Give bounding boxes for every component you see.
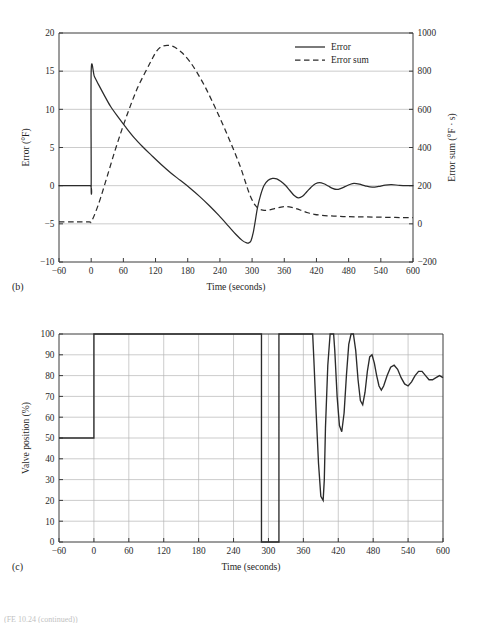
panel-tag-label: (b) xyxy=(12,281,24,293)
x-tick-label: 360 xyxy=(277,266,291,276)
x-tick-label: 0 xyxy=(92,546,97,556)
y-axis-title: Valve position (%) xyxy=(20,402,32,474)
y2-tick-label: 600 xyxy=(418,105,432,115)
y-tick-label: 10 xyxy=(45,105,55,115)
y-tick-label: 40 xyxy=(45,454,55,464)
y2-tick-label: 400 xyxy=(418,143,432,153)
x-tick-label: 60 xyxy=(119,266,129,276)
x-axis-title: Time (seconds) xyxy=(206,281,265,293)
x-tick-label: 120 xyxy=(149,266,163,276)
x-tick-label: 480 xyxy=(342,266,356,276)
x-tick-label: 600 xyxy=(436,546,450,556)
y-tick-label: 5 xyxy=(50,143,55,153)
chart-panel-b: −60060120180240300360420480540600−10−505… xyxy=(0,0,477,312)
y-tick-label: 30 xyxy=(45,475,55,485)
footer-caption-fragment: (FE 10.24 (continued)) xyxy=(4,616,124,623)
y-tick-label: 60 xyxy=(45,413,55,423)
y-tick-label: 0 xyxy=(50,537,55,547)
x-tick-label: 180 xyxy=(181,266,195,276)
y2-tick-label: 800 xyxy=(418,66,432,76)
y-tick-label: 20 xyxy=(45,28,55,38)
y-tick-label: 100 xyxy=(41,329,55,339)
y-tick-label: 50 xyxy=(45,433,55,443)
x-tick-label: 420 xyxy=(331,546,345,556)
series-line-error-sum xyxy=(59,45,413,222)
x-tick-label: 300 xyxy=(245,266,259,276)
legend-label-0: Error xyxy=(331,42,352,52)
y-tick-label: 70 xyxy=(45,392,55,402)
y-tick-label: 20 xyxy=(45,496,55,506)
y2-tick-label: −200 xyxy=(418,257,438,267)
y2-tick-label: 200 xyxy=(418,181,432,191)
x-tick-label: 540 xyxy=(401,546,415,556)
chart-panel-c: −600601201802403003604204805406000102030… xyxy=(0,312,477,602)
x-tick-label: 480 xyxy=(366,546,380,556)
x-tick-label: 540 xyxy=(374,266,388,276)
chart-c-svg: −600601201802403003604204805406000102030… xyxy=(0,312,477,602)
x-axis-title: Time (seconds) xyxy=(221,561,280,573)
x-tick-label: 420 xyxy=(309,266,323,276)
y2-axis-title: Error sum (°F · s) xyxy=(446,113,458,181)
x-tick-label: 120 xyxy=(157,546,171,556)
x-tick-label: 180 xyxy=(192,546,206,556)
y-tick-label: 15 xyxy=(45,66,55,76)
y2-tick-label: 1000 xyxy=(418,28,437,38)
y-tick-label: 80 xyxy=(45,371,55,381)
x-tick-label: 240 xyxy=(227,546,241,556)
x-tick-label: 300 xyxy=(261,546,275,556)
chart-b-svg: −60060120180240300360420480540600−10−505… xyxy=(0,0,477,312)
x-tick-label: 360 xyxy=(296,546,310,556)
y-tick-label: 10 xyxy=(45,517,55,527)
x-tick-label: 0 xyxy=(89,266,94,276)
y2-tick-label: 0 xyxy=(418,219,423,229)
y-axis-title: Error (°F) xyxy=(20,128,32,166)
panel-tag-label: (c) xyxy=(12,561,23,573)
y-tick-label: −5 xyxy=(45,219,55,229)
y-tick-label: 0 xyxy=(50,181,55,191)
x-tick-label: 240 xyxy=(213,266,227,276)
x-tick-label: 60 xyxy=(124,546,134,556)
legend-label-1: Error sum xyxy=(331,55,369,65)
y-tick-label: −10 xyxy=(40,257,55,267)
footer-caption-text: (FE 10.24 (continued)) xyxy=(4,616,124,623)
figure-container: −60060120180240300360420480540600−10−505… xyxy=(0,0,477,629)
y-tick-label: 90 xyxy=(45,350,55,360)
